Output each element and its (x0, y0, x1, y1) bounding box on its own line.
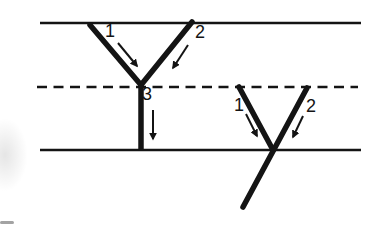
right-y-junction: 1 2 (234, 87, 316, 207)
left-y-junction: 1 2 3 (90, 21, 205, 150)
right-branch2-label: 2 (306, 96, 316, 116)
left-branch1-label: 1 (105, 21, 115, 41)
right-junction-branch1 (239, 87, 273, 150)
right-junction-branch2 (243, 88, 307, 207)
right-branch1-label: 1 (234, 95, 244, 115)
left-branch2-arrow-icon (173, 45, 188, 68)
dislocation-junction-diagram: 1 2 3 1 2 (0, 0, 387, 225)
right-branch2-arrow-icon (293, 116, 303, 137)
left-branch2-label: 2 (195, 22, 205, 42)
left-stem-label: 3 (142, 84, 152, 104)
diagram-canvas: 1 2 3 1 2 (0, 0, 387, 225)
